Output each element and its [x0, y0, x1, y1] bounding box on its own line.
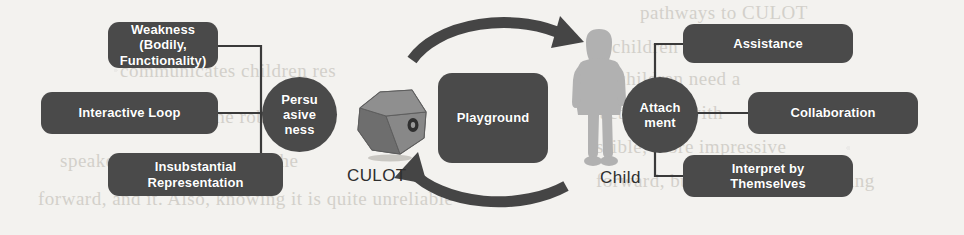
top-arc-arrow [412, 16, 584, 60]
child-label: Child [600, 168, 641, 188]
hub-attachment-label: Attach ment [639, 100, 680, 131]
hub-persuasiveness-label: Persu asive ness [281, 92, 318, 138]
culot-label: CULOT [347, 166, 407, 186]
background-text-line: pathways to CULOT [640, 2, 808, 24]
node-interpret-by-themselves-label: Interpret by Themselves [730, 161, 805, 192]
node-insubstantial-representation-label: Insubstantial Representation [147, 159, 243, 190]
node-insubstantial-representation[interactable]: Insubstantial Representation [108, 153, 283, 196]
node-assistance[interactable]: Assistance [683, 24, 853, 63]
node-collaboration-label: Collaboration [790, 105, 875, 120]
node-interpret-by-themselves[interactable]: Interpret by Themselves [683, 155, 853, 197]
node-interactive-loop-label: Interactive Loop [78, 105, 180, 120]
diagram-canvas: pathways to CULOT children cared communi… [0, 0, 964, 235]
child-silhouette-icon [566, 28, 632, 173]
culot-robot-icon [350, 78, 436, 164]
hub-attachment[interactable]: Attach ment [622, 77, 698, 153]
node-interactive-loop[interactable]: Interactive Loop [41, 92, 218, 134]
node-collaboration[interactable]: Collaboration [748, 92, 918, 134]
node-weakness[interactable]: Weakness (Bodily, Functionality) [108, 22, 218, 68]
hub-persuasiveness[interactable]: Persu asive ness [262, 77, 337, 152]
node-playground-label: Playground [457, 110, 530, 125]
node-playground[interactable]: Playground [438, 73, 548, 163]
node-weakness-label: Weakness (Bodily, Functionality) [114, 22, 212, 68]
node-assistance-label: Assistance [733, 36, 803, 51]
